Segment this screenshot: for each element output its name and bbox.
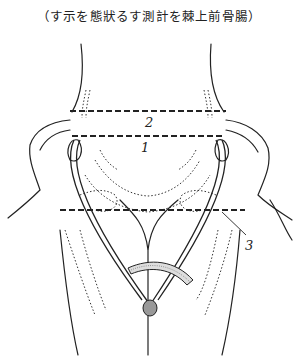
label-1: 1 [141,140,149,155]
label-3: 3 [245,238,253,253]
pelvimeter-illustration: 2 1 3 [0,0,298,362]
torso-right-outline [210,44,224,112]
figure: （す示を態狀るす測計を棘上前骨腸） [0,0,298,362]
pelvimeter-scale [128,262,193,285]
left-thigh-outline [60,230,78,355]
pelvimeter-left-arm [71,140,142,300]
pelvimeter-hinge [143,300,157,316]
torso-left-outline [72,44,82,112]
label-2: 2 [144,115,153,130]
